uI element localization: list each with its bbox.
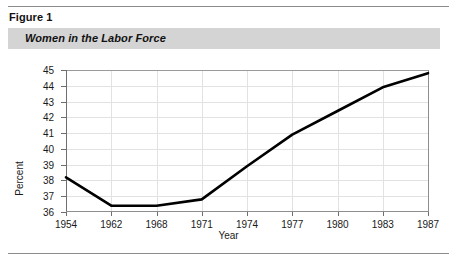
x-axis-title: Year — [0, 230, 457, 241]
x-tick-mark — [338, 212, 339, 216]
x-tick-label: 1983 — [372, 219, 394, 230]
x-tick-label: 1980 — [326, 219, 348, 230]
x-tick-label: 1974 — [236, 219, 258, 230]
x-tick-label: 1977 — [281, 219, 303, 230]
y-tick-label: 38 — [43, 175, 54, 186]
x-tick-label: 1968 — [145, 219, 167, 230]
y-tick-label: 40 — [43, 143, 54, 154]
x-tick-label: 1971 — [191, 219, 213, 230]
x-tick-label: 1987 — [417, 219, 439, 230]
x-tick-mark — [111, 212, 112, 216]
data-series-line — [66, 70, 429, 212]
y-tick-label: 44 — [43, 80, 54, 91]
chart-title: Women in the Labor Force — [25, 32, 166, 44]
x-tick-mark — [383, 212, 384, 216]
top-divider — [8, 6, 449, 7]
x-tick-mark — [292, 212, 293, 216]
y-tick-label: 39 — [43, 159, 54, 170]
x-tick-mark — [66, 212, 67, 216]
chart-container: Percent 36373839404142434445 19541962196… — [0, 56, 457, 241]
y-tick-label: 42 — [43, 112, 54, 123]
plot-area: 36373839404142434445 1954196219681971197… — [66, 70, 429, 212]
x-tick-label: 1962 — [100, 219, 122, 230]
x-tick-mark — [428, 212, 429, 216]
x-tick-label: 1954 — [55, 219, 77, 230]
bottom-divider — [8, 253, 449, 254]
y-tick-label: 45 — [43, 65, 54, 76]
y-tick-label: 36 — [43, 207, 54, 218]
x-tick-mark — [202, 212, 203, 216]
y-tick-label: 43 — [43, 96, 54, 107]
y-tick-label: 37 — [43, 191, 54, 202]
figure-label: Figure 1 — [9, 11, 53, 23]
x-tick-mark — [157, 212, 158, 216]
y-axis-title: Percent — [14, 144, 25, 214]
x-tick-mark — [247, 212, 248, 216]
y-tick-label: 41 — [43, 128, 54, 139]
